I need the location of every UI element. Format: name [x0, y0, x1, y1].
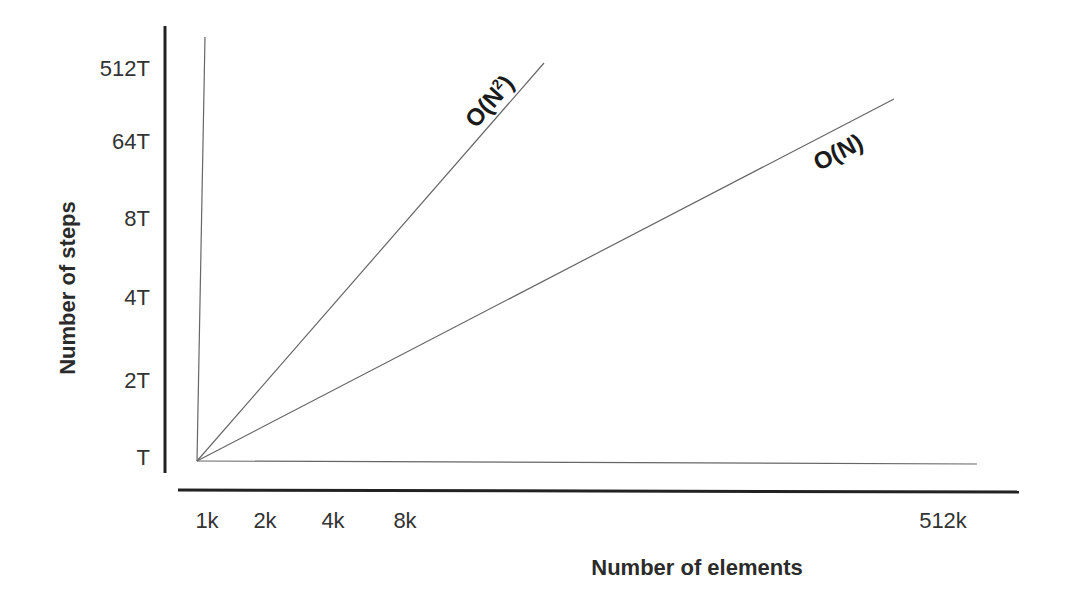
y-tick-64T: 64T — [30, 131, 150, 153]
y-tick-8T: 8T — [30, 208, 150, 230]
y-tick-4T: 4T — [30, 287, 150, 309]
linear-line — [197, 99, 894, 461]
chart-plot-area — [0, 0, 1067, 612]
x-tick-1k: 1k — [177, 510, 237, 532]
y-tick-512T: 512T — [30, 58, 150, 80]
x-axis — [178, 490, 1019, 492]
y-tick-2T: 2T — [30, 370, 150, 392]
constant-line — [197, 461, 977, 464]
x-axis-title: Number of elements — [591, 555, 803, 581]
x-tick-512k: 512k — [913, 510, 973, 532]
y-axis-title: Number of steps — [55, 201, 81, 375]
x-tick-8k: 8k — [375, 510, 435, 532]
y-tick-T: T — [30, 447, 150, 469]
x-tick-4k: 4k — [303, 510, 363, 532]
steep-line — [197, 37, 205, 461]
quadratic-line — [197, 63, 544, 461]
complexity-chart: 512T 64T 8T 4T 2T T 1k 2k 4k 8k 512k Num… — [0, 0, 1067, 612]
x-tick-2k: 2k — [235, 510, 295, 532]
